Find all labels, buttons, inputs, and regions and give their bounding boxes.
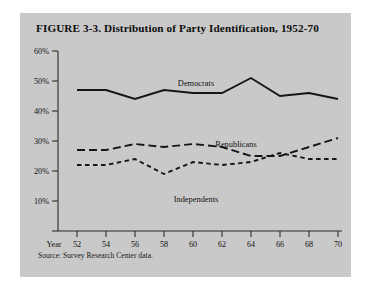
series-label-democrats: Democrats — [178, 79, 214, 88]
y-tick-label-30: 30% — [34, 137, 49, 146]
series-line-republicans — [77, 138, 338, 156]
x-axis-ticks — [77, 231, 338, 237]
y-tick-label-10: 10% — [34, 197, 49, 206]
x-tick-label-52: 52 — [73, 240, 81, 249]
x-tick-label-66: 66 — [276, 240, 284, 249]
x-tick-label-58: 58 — [160, 240, 168, 249]
x-tick-label-62: 62 — [218, 240, 226, 249]
y-tick-label-60: 60% — [34, 47, 49, 56]
y-tick-label-50: 50% — [34, 77, 49, 86]
x-tick-label-56: 56 — [131, 240, 139, 249]
figure-panel: FIGURE 3-3. Distribution of Party Identi… — [20, 13, 351, 277]
series-label-republicans: Republicans — [215, 140, 256, 149]
series-line-independents — [77, 153, 338, 174]
x-tick-label-60: 60 — [189, 240, 197, 249]
x-tick-label-68: 68 — [305, 240, 313, 249]
party-identification-line-chart: 10% 20% 30% 40% 50% 60% Year 52 54 56 58… — [20, 13, 351, 277]
y-tick-label-40: 40% — [34, 107, 49, 116]
series-label-independents: Independents — [174, 195, 219, 204]
x-tick-label-70: 70 — [334, 240, 342, 249]
y-axis-ticks — [52, 51, 58, 231]
x-axis-label: Year — [46, 240, 61, 249]
x-tick-label-54: 54 — [102, 240, 110, 249]
y-tick-label-20: 20% — [34, 167, 49, 176]
source-note: Source: Survey Research Center data. — [38, 251, 153, 260]
x-tick-label-64: 64 — [247, 240, 255, 249]
